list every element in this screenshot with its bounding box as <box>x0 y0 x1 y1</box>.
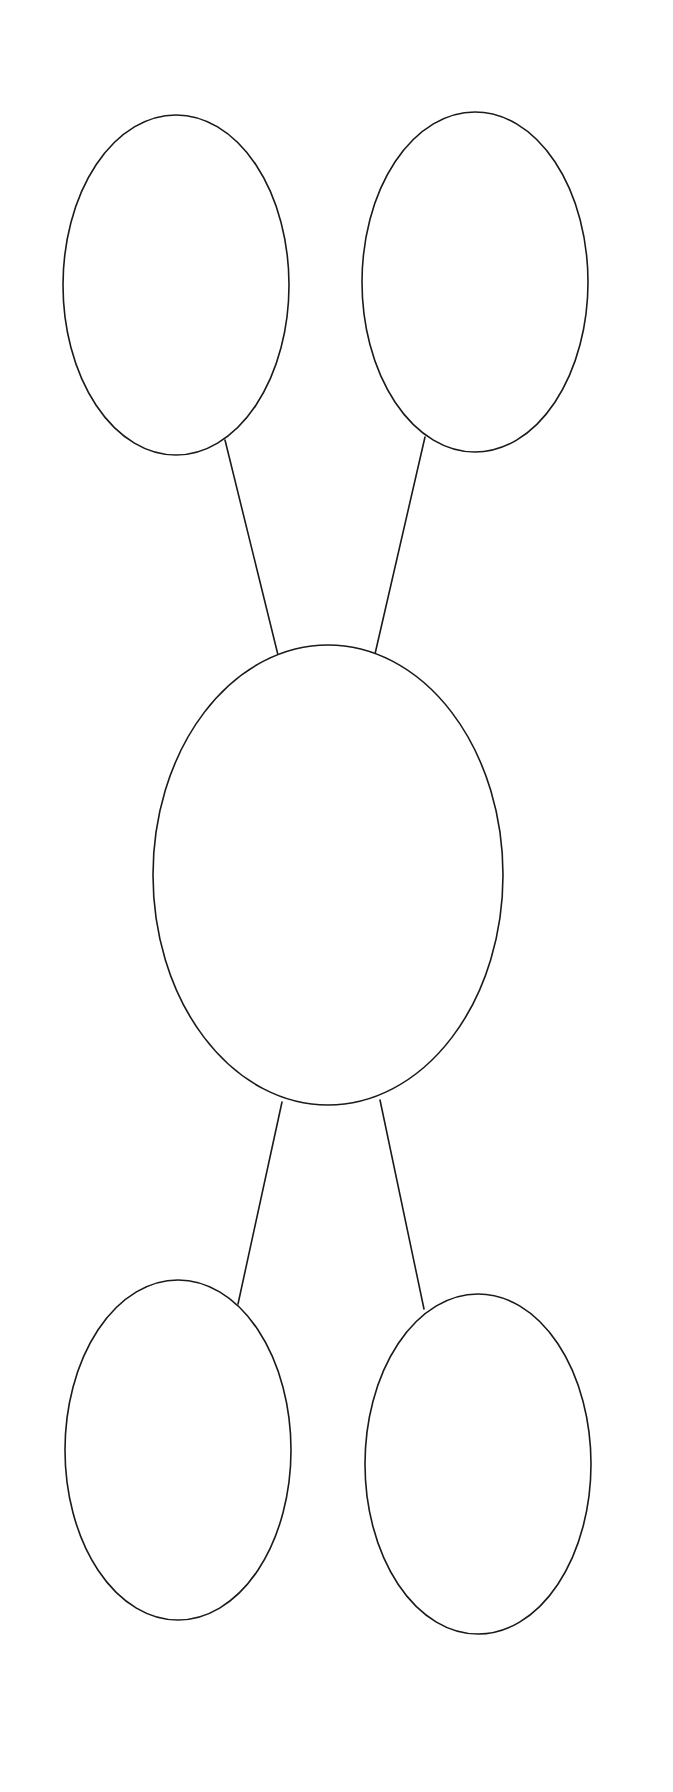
node-top-right <box>362 112 588 452</box>
ellipse-nodes <box>63 112 591 1634</box>
node-bottom-right <box>365 1294 591 1634</box>
ellipse-center <box>153 645 503 1105</box>
node-center <box>153 645 503 1105</box>
edge-center-to-bottom-left <box>238 1102 282 1304</box>
ellipse-bottom-right <box>365 1294 591 1634</box>
graphic-organizer-diagram <box>0 0 673 1792</box>
edge-top-right-to-center <box>375 437 425 654</box>
edge-top-left-to-center <box>225 440 278 655</box>
ellipse-top-left <box>63 115 289 455</box>
edge-center-to-bottom-right <box>380 1100 424 1309</box>
node-top-left <box>63 115 289 455</box>
ellipse-top-right <box>362 112 588 452</box>
node-bottom-left <box>65 1280 291 1620</box>
ellipse-bottom-left <box>65 1280 291 1620</box>
